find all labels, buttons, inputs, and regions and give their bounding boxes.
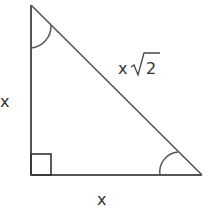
- triangle: [31, 5, 202, 175]
- hypotenuse: [31, 5, 202, 175]
- top-angle-arc: [31, 25, 51, 48]
- left-leg-label: x: [0, 92, 9, 111]
- hypotenuse-var: x: [118, 59, 127, 78]
- right-angle-marker: [31, 154, 51, 175]
- hypotenuse-radicand: 2: [146, 59, 156, 78]
- triangle-diagram: x x x 2: [0, 0, 210, 212]
- bottom-right-angle-arc: [160, 152, 178, 175]
- bottom-leg-label: x: [97, 190, 106, 209]
- hypotenuse-label: x 2: [118, 53, 160, 78]
